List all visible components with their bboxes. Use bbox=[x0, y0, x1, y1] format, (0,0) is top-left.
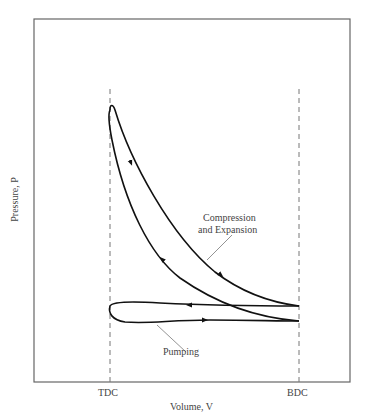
comp-label-line1: Compression bbox=[203, 212, 256, 224]
tdc-label: TDC bbox=[98, 387, 118, 399]
pumping-label: Pumping bbox=[163, 346, 199, 358]
expansion-curve bbox=[110, 106, 299, 307]
x-axis-label: Volume, V bbox=[170, 401, 213, 413]
exhaust-line bbox=[110, 302, 299, 306]
plot-frame bbox=[34, 19, 350, 382]
y-axis-label: Pressure, P bbox=[9, 175, 20, 225]
comp-leader-line bbox=[207, 235, 232, 260]
intake-line bbox=[110, 306, 299, 323]
bdc-label: BDC bbox=[287, 387, 308, 399]
comp-label-line2: and Expansion bbox=[198, 224, 257, 236]
